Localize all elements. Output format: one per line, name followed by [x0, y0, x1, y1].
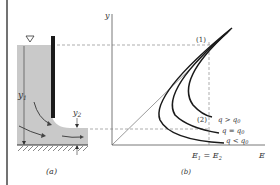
panel-a-caption: (a): [46, 167, 57, 176]
x-axis-label: E: [258, 151, 265, 160]
curve-label-q-less: q < q0: [226, 137, 249, 145]
figure: y1 y2 (a) y E: [0, 0, 280, 185]
curve-label-q-equal: q = q0: [222, 127, 245, 135]
point-2-label: (2): [197, 116, 207, 124]
y2-label: y2: [72, 108, 82, 118]
panel-b-caption: (b): [181, 168, 191, 176]
sluice-gate: [51, 36, 55, 118]
curve-label-q-greater: q > q0: [218, 116, 241, 124]
panel-a-sluice-gate: y1 y2 (a): [17, 36, 88, 176]
y-axis-label: y: [104, 11, 110, 20]
water-surface-symbol-icon: [26, 36, 34, 42]
panel-b-specific-energy: y E (1) (2) q > q0 q = q0 q < q0 E1 = E2…: [57, 11, 265, 176]
energy-equality-label: E1 = E2: [191, 151, 222, 161]
point-1-label: (1): [196, 36, 206, 44]
